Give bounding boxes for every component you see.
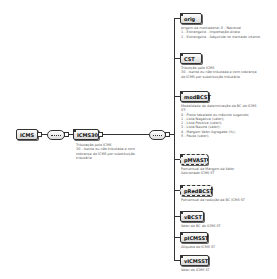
element-pmvast[interactable]: pMVAST [180, 154, 208, 165]
sequence-compositor-icon[interactable] [149, 130, 166, 140]
element-doc: Percentual da Margem de Valor Adicionado… [181, 167, 249, 176]
element-doc: Alíquota do ICMS ST [181, 245, 251, 249]
element-label: ICMS30 [77, 132, 98, 138]
element-vicmsst[interactable]: vICMSST [180, 255, 209, 266]
element-label: ICMS [20, 132, 34, 138]
element-icms[interactable]: ICMS [16, 129, 38, 140]
tree-trunk [174, 18, 175, 261]
sequence-compositor-icon[interactable] [47, 130, 65, 140]
element-modbcst[interactable]: modBCST [180, 91, 209, 102]
element-label: pRedBCST [184, 188, 213, 194]
element-label: orig [184, 16, 195, 22]
element-cst[interactable]: CST [180, 53, 202, 64]
element-doc: Valor da BC do ICMS ST [181, 224, 251, 228]
element-doc: Valor do ICMS ST [181, 268, 251, 272]
element-orig[interactable]: orig [180, 13, 202, 24]
element-label: vBCST [184, 214, 202, 220]
element-doc: Modalidade de determinação da BC do ICMS… [181, 104, 261, 138]
connector [103, 134, 149, 135]
element-doc: Tributação pelo ICMS 30 - Isenta ou não … [76, 143, 138, 160]
element-label: pICMSST [184, 235, 208, 241]
element-label: vICMSST [184, 258, 208, 264]
element-doc: Percentual da redução da BC ICMS ST [181, 198, 251, 202]
element-doc: origem da mercadoria: 0 - Nacional 1 - E… [181, 26, 261, 39]
element-doc: Tributção pelo ICMS 30 - Isenta ou não t… [181, 66, 259, 79]
element-vbcst[interactable]: vBCST [180, 211, 204, 222]
element-label: CST [184, 56, 195, 62]
element-label: pMVAST [184, 157, 207, 163]
element-icms30[interactable]: ICMS30 [73, 129, 99, 140]
element-picmsst[interactable]: pICMSST [180, 232, 208, 243]
element-label: modBCST [184, 94, 211, 100]
element-predbcst[interactable]: pRedBCST [180, 185, 212, 196]
